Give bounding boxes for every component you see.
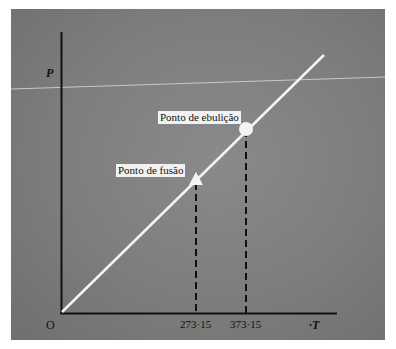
x-tick-273: 273·15 bbox=[180, 318, 211, 330]
x-tick-373: 373·15 bbox=[230, 318, 261, 330]
fusion-marker-triangle bbox=[189, 172, 203, 185]
boiling-marker-circle bbox=[239, 122, 253, 136]
scratch-line bbox=[11, 77, 385, 89]
origin-label: O bbox=[46, 318, 55, 333]
chart-plot bbox=[0, 0, 396, 349]
y-axis-label: P bbox=[46, 66, 53, 81]
boiling-point-label: Ponto de ebulição bbox=[158, 111, 241, 124]
fusion-point-label: Ponto de fusão bbox=[116, 164, 185, 177]
x-axis-label: ·T bbox=[309, 318, 319, 333]
